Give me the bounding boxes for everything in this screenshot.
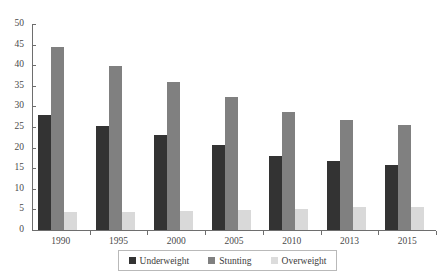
bar-underweight-2000 — [154, 135, 167, 230]
x-tick-mark — [90, 231, 91, 235]
y-axis-tick: 20 — [0, 148, 32, 149]
y-axis-tick: 50 — [0, 24, 32, 25]
x-tick-mark — [436, 231, 437, 235]
x-tick-mark — [147, 231, 148, 235]
y-tick-label: 40 — [15, 58, 25, 71]
y-tick-label: 30 — [15, 99, 25, 112]
bar-overweight-1990 — [64, 212, 77, 230]
chart-legend: UnderweightStuntingOverweight — [118, 250, 337, 271]
bar-underweight-2015 — [385, 165, 398, 230]
y-tick-label: 5 — [19, 202, 24, 215]
y-tick-label: 45 — [15, 38, 25, 51]
x-tick-mark — [378, 231, 379, 235]
bar-overweight-2015 — [411, 207, 424, 230]
y-tick-label: 20 — [15, 141, 25, 154]
y-axis-tick: 40 — [0, 65, 32, 66]
bar-chart: 05101520253035404550 1990199520002005201… — [0, 0, 444, 279]
legend-label: Stunting — [219, 256, 251, 266]
y-tick-label: 0 — [19, 223, 24, 236]
y-tick-label: 10 — [15, 182, 25, 195]
legend-label: Overweight — [282, 256, 327, 266]
bar-stunting-2013 — [340, 120, 353, 230]
x-axis-line — [32, 230, 436, 231]
bar-stunting-2015 — [398, 125, 411, 230]
bar-underweight-2010 — [269, 156, 282, 230]
legend-item-underweight: Underweight — [129, 256, 190, 266]
y-tick-label: 50 — [15, 17, 25, 30]
bar-underweight-1995 — [96, 126, 109, 230]
x-axis-label-2005: 2005 — [205, 236, 263, 246]
x-axis-label-2010: 2010 — [263, 236, 321, 246]
bar-underweight-2005 — [212, 145, 225, 230]
bar-stunting-1990 — [51, 47, 64, 230]
y-tick-label: 25 — [15, 120, 25, 133]
bar-stunting-1995 — [109, 66, 122, 230]
legend-item-overweight: Overweight — [271, 256, 327, 266]
y-tick-label: 35 — [15, 79, 25, 92]
bar-overweight-2005 — [238, 210, 251, 230]
bar-stunting-2005 — [225, 97, 238, 230]
bar-overweight-2010 — [295, 209, 308, 230]
x-tick-mark — [205, 231, 206, 235]
legend-swatch-underweight-icon — [129, 257, 136, 264]
legend-swatch-overweight-icon — [271, 257, 278, 264]
bar-underweight-1990 — [38, 115, 51, 230]
legend-label: Underweight — [140, 256, 190, 266]
bar-overweight-2000 — [180, 211, 193, 230]
bar-overweight-1995 — [122, 212, 135, 230]
y-axis-tick: 15 — [0, 168, 32, 169]
y-axis-tick: 35 — [0, 86, 32, 87]
x-axis-label-2000: 2000 — [147, 236, 205, 246]
y-tick-mark — [32, 230, 36, 231]
bar-stunting-2010 — [282, 112, 295, 230]
y-axis-tick: 45 — [0, 45, 32, 46]
y-axis-tick: 0 — [0, 230, 32, 231]
legend-item-stunting: Stunting — [208, 256, 251, 266]
bar-stunting-2000 — [167, 82, 180, 230]
y-axis-tick: 25 — [0, 127, 32, 128]
y-axis-tick: 10 — [0, 189, 32, 190]
y-tick-label: 15 — [15, 161, 25, 174]
y-axis-tick: 5 — [0, 209, 32, 210]
x-tick-mark — [321, 231, 322, 235]
x-axis-label-2013: 2013 — [321, 236, 379, 246]
legend-swatch-stunting-icon — [208, 257, 215, 264]
x-axis-label-1990: 1990 — [32, 236, 90, 246]
x-axis-label-2015: 2015 — [378, 236, 436, 246]
plot-area — [32, 24, 436, 230]
bar-overweight-2013 — [353, 207, 366, 230]
x-tick-mark — [263, 231, 264, 235]
y-axis-tick: 30 — [0, 106, 32, 107]
x-axis-label-1995: 1995 — [90, 236, 148, 246]
bar-underweight-2013 — [327, 161, 340, 230]
